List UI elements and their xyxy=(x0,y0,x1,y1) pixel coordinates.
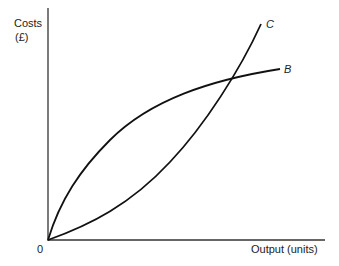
origin-label: 0 xyxy=(37,243,43,256)
curve-c xyxy=(48,24,261,240)
curve-b-label: B xyxy=(284,63,291,76)
curve-c-label: C xyxy=(266,18,274,31)
y-axis-label-line1: Costs xyxy=(14,17,42,30)
curve-b xyxy=(48,69,280,240)
chart-canvas xyxy=(0,0,339,266)
x-axis-label: Output (units) xyxy=(251,243,318,256)
y-axis-label-line2: (£) xyxy=(15,31,28,44)
